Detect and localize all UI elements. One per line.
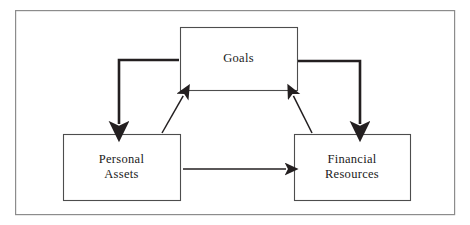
diagram-canvas: Goals Personal Assets Financial Resource…	[0, 0, 470, 225]
node-box-goals[interactable]	[181, 28, 298, 91]
diagram-svg	[0, 0, 470, 225]
node-box-personal-assets[interactable]	[64, 135, 181, 201]
node-box-financial-resources[interactable]	[295, 135, 411, 201]
